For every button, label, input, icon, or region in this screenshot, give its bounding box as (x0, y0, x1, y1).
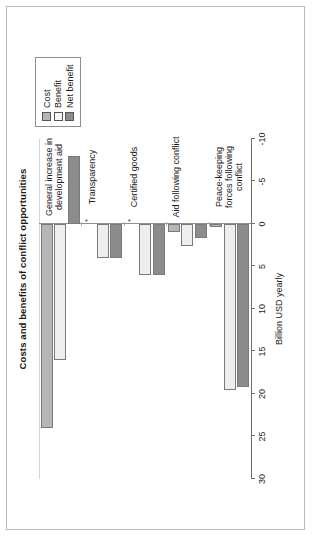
chart-page: Costs and benefits of conflict opportuni… (0, 0, 317, 537)
value-tick (251, 393, 255, 394)
bar-net (110, 224, 122, 258)
value-tick-label: 30 (257, 473, 267, 483)
value-tick (251, 138, 255, 139)
value-tick (251, 435, 255, 436)
value-tick-label: 0 (257, 221, 267, 226)
value-tick-label: -5 (257, 177, 267, 185)
chart-title: Costs and benefits of conflict opportuni… (17, 7, 28, 531)
category-label: Transparency (86, 134, 96, 220)
category-label: Peace-keeping forces following conflict (213, 134, 243, 220)
value-tick-label: 25 (257, 431, 267, 441)
bar-net (67, 156, 79, 224)
value-tick (251, 223, 255, 224)
value-tick-label: 20 (257, 388, 267, 398)
legend-label-cost: Cost (41, 89, 51, 108)
bar-cost (210, 224, 222, 227)
legend-item-net-benefit: Net benefit (64, 64, 74, 121)
bar-cost (167, 224, 179, 233)
value-tick (251, 478, 255, 479)
legend-label-benefit: Benefit (53, 79, 63, 107)
legend-swatch-cost (42, 112, 51, 121)
bar-net (237, 224, 249, 387)
rotated-chart-wrapper: Costs and benefits of conflict opportuni… (0, 0, 317, 537)
chart-canvas: Costs and benefits of conflict opportuni… (13, 7, 305, 531)
legend-item-cost: Cost (41, 64, 51, 121)
legend-swatch-benefit (53, 112, 62, 121)
category-separator (81, 222, 82, 226)
category-label: General increase in development aid (44, 134, 64, 220)
value-tick (251, 265, 255, 266)
value-tick-label: 10 (257, 303, 267, 313)
category-separator (208, 222, 209, 226)
legend-label-net-benefit: Net benefit (64, 64, 74, 108)
value-tick-label: 5 (257, 263, 267, 268)
category-separator (123, 222, 124, 226)
bar-cost (40, 224, 52, 428)
bar-benefit (96, 224, 108, 258)
value-tick-label: -10 (257, 132, 267, 145)
legend-swatch-net-benefit (65, 112, 74, 121)
plot-top-gridline (39, 139, 40, 479)
value-tick (251, 308, 255, 309)
bar-benefit (181, 224, 193, 246)
bar-benefit (54, 224, 66, 360)
category-separator (166, 222, 167, 226)
bar-net (194, 224, 206, 238)
value-tick (251, 350, 255, 351)
legend-item-benefit: Benefit (53, 64, 63, 121)
chart-legend: Cost Benefit Net benefit (35, 57, 81, 127)
category-label: Certified goods (129, 134, 139, 220)
value-tick (251, 180, 255, 181)
bar-net (152, 224, 164, 275)
value-tick-label: 15 (257, 346, 267, 356)
bar-benefit (223, 224, 235, 390)
bar-benefit (139, 224, 151, 275)
category-label: Aid following conflict (171, 134, 181, 220)
value-axis-label: Billion USD yearly (274, 139, 284, 479)
